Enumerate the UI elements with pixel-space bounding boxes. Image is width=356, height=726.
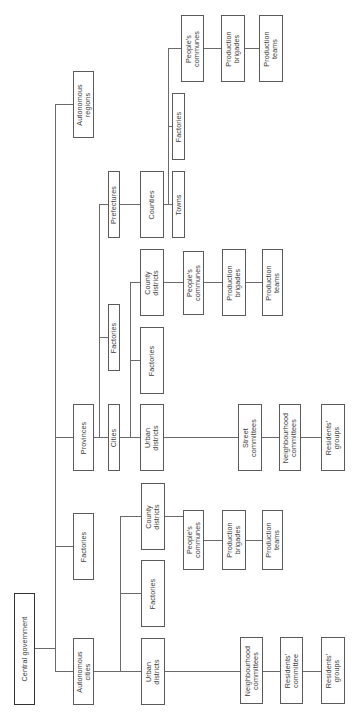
- node-label: People's communes: [186, 265, 202, 301]
- connector: [245, 48, 259, 49]
- node-label: Factories: [175, 111, 183, 141]
- node-label: Production brigades: [226, 522, 242, 557]
- cd-production-brigades-node: Production brigades: [222, 249, 246, 316]
- node-label: Production brigades: [226, 265, 242, 300]
- connector: [246, 282, 262, 283]
- connector: [99, 204, 108, 205]
- ac-peoples-communes-node: People's communes: [183, 510, 204, 570]
- node-label: People's communes: [186, 522, 202, 558]
- connector: [120, 204, 140, 205]
- connector: [246, 540, 262, 541]
- connector: [164, 437, 238, 438]
- node-label: Factories: [148, 345, 156, 375]
- connector: [55, 104, 73, 105]
- node-label: Neighbourhood committees: [282, 412, 298, 462]
- connector: [165, 671, 240, 672]
- connector: [99, 337, 108, 338]
- node-label: Central government: [21, 617, 29, 682]
- ac-neighbourhood-committees-node: Neighbourhood committees: [240, 637, 263, 704]
- county-production-brigades-node: Production brigades: [221, 15, 245, 82]
- node-label: Counties: [148, 190, 156, 219]
- street-committees-node: Street committees: [238, 404, 262, 471]
- cities-node: Cities: [108, 404, 120, 471]
- towns-node: Towns: [172, 171, 185, 238]
- ac-factories-node: Factories: [141, 560, 165, 627]
- node-label: Residents' committee: [284, 653, 300, 687]
- connector: [130, 282, 140, 283]
- node-label: County districts: [144, 270, 160, 295]
- node-label: Prefectures: [110, 186, 118, 224]
- ac-county-districts-node: County districts: [141, 483, 165, 550]
- connector: [35, 648, 55, 649]
- connector: [55, 671, 73, 672]
- node-label: Neighbourhood committees: [244, 645, 260, 695]
- connector: [55, 104, 56, 672]
- connector: [303, 671, 321, 672]
- counties-node: Counties: [140, 171, 164, 238]
- connector: [204, 48, 221, 49]
- autonomous-cities-node: Autonomous cities: [73, 638, 94, 705]
- node-label: Urban districts: [144, 425, 160, 450]
- node-label: Residents' groups: [325, 653, 341, 687]
- city-neighbourhood-committees-node: Neighbourhood committees: [279, 404, 301, 471]
- connector: [204, 540, 222, 541]
- organization-chart: Central government Autonomous cities Fac…: [0, 0, 356, 726]
- node-label: Factories: [110, 322, 118, 352]
- city-county-districts-node: County districts: [140, 249, 164, 316]
- city-factories-node: Factories: [140, 327, 164, 394]
- connector: [204, 282, 222, 283]
- connector: [263, 671, 280, 672]
- node-label: People's communes: [185, 31, 201, 67]
- cd-peoples-communes-node: People's communes: [183, 251, 204, 315]
- node-label: Street committees: [242, 419, 258, 457]
- connector: [130, 360, 140, 361]
- cd-production-teams-node: Production teams: [262, 249, 283, 316]
- node-label: Urban districts: [145, 659, 161, 684]
- provinces-node: Provinces: [73, 404, 94, 471]
- node-label: Provinces: [80, 421, 88, 453]
- node-label: Factories: [149, 578, 157, 608]
- ac-production-brigades-node: Production brigades: [222, 510, 246, 570]
- connector: [120, 516, 141, 517]
- ac-urban-districts-node: Urban districts: [141, 638, 165, 705]
- city-urban-districts-node: Urban districts: [140, 404, 164, 471]
- factories-central-node: Factories: [73, 513, 94, 580]
- ac-production-teams-node: Production teams: [262, 510, 283, 570]
- node-label: Production brigades: [225, 31, 241, 66]
- connector: [94, 437, 108, 438]
- ac-residents-groups-node: Residents' groups: [321, 637, 345, 704]
- node-label: Factories: [80, 531, 88, 561]
- connector: [168, 48, 181, 49]
- prov-factories-node: Factories: [108, 304, 120, 371]
- node-label: Autonomous cities: [76, 651, 92, 692]
- prefectures-node: Prefectures: [108, 171, 120, 238]
- node-label: Cities: [110, 428, 118, 447]
- connector: [120, 516, 121, 672]
- connector: [301, 437, 321, 438]
- ac-residents-committee-node: Residents' committee: [280, 637, 303, 704]
- connector: [99, 204, 100, 438]
- county-peoples-communes-node: People's communes: [181, 15, 204, 82]
- connector: [55, 437, 73, 438]
- connector: [120, 671, 141, 672]
- node-label: County districts: [145, 504, 161, 529]
- connector: [262, 437, 279, 438]
- central-government-node: Central government: [14, 593, 35, 705]
- county-production-teams-node: Production teams: [259, 15, 283, 82]
- autonomous-regions-node: Autonomous regions: [73, 71, 94, 138]
- node-label: Production teams: [265, 265, 281, 300]
- node-label: Residents' groups: [325, 420, 341, 454]
- connector: [55, 546, 73, 547]
- city-residents-groups-node: Residents' groups: [321, 404, 345, 471]
- node-label: Autonomous regions: [76, 84, 92, 125]
- connector: [94, 671, 120, 672]
- node-label: Towns: [175, 194, 183, 215]
- county-factories-node: Factories: [172, 93, 185, 160]
- node-label: Production teams: [263, 31, 279, 66]
- connector: [120, 593, 141, 594]
- node-label: Production teams: [265, 522, 281, 557]
- connector: [165, 516, 183, 517]
- connector: [164, 282, 183, 283]
